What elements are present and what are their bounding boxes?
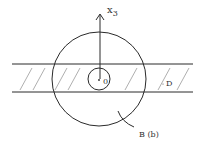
- region-d-dot: [162, 83, 163, 84]
- ball-b-circle: [52, 32, 146, 126]
- ball-b-label: B (b): [139, 130, 159, 139]
- origin-label: 0: [103, 77, 108, 86]
- origin-dot: [98, 79, 100, 81]
- region-d-label: D: [166, 79, 172, 88]
- diagram-canvas: x3 0 D B (b): [0, 0, 203, 146]
- x3-axis-label: x3: [107, 4, 118, 18]
